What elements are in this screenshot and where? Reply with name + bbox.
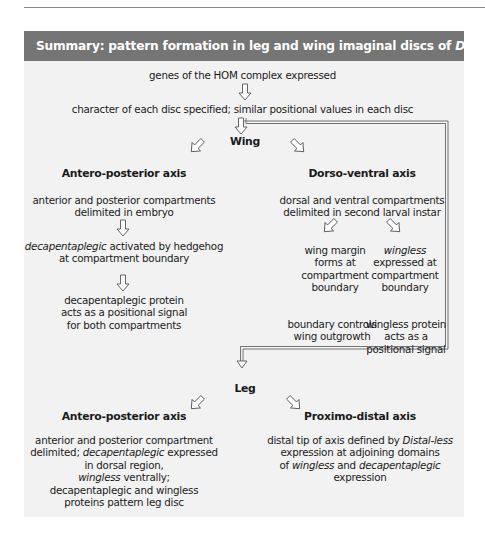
text-line: compartment	[365, 269, 445, 281]
text-span: distal tip of axis defined by	[267, 434, 402, 446]
step-disc-character: character of each disc specified; simila…	[0, 103, 485, 115]
text-line: wingless protein	[366, 318, 446, 330]
text-line: anterior and posterior compartments	[24, 194, 224, 206]
wing-dpp-signal-text: decapentaplegic protein acts as a positi…	[24, 294, 224, 331]
text-line: delimited in second larval instar	[262, 206, 462, 218]
gene-italic: wingless	[384, 244, 426, 256]
gene-italic: decapentaplegic	[83, 446, 165, 458]
text-line: acts as a	[366, 330, 446, 342]
text-span: ventrally;	[120, 471, 169, 483]
text-span: activated by hedgehog	[106, 240, 223, 252]
text-span: expressed	[164, 446, 218, 458]
text-line: for both compartments	[24, 319, 224, 331]
text-line: decapentaplegic protein	[24, 294, 224, 306]
text-span: and	[334, 459, 359, 471]
text-line: at compartment boundary	[24, 252, 224, 264]
text-line: delimited in embryo	[24, 206, 224, 218]
arrow-right-down-icon	[288, 136, 308, 156]
wing-ap-heading: Antero-posterior axis	[24, 168, 224, 180]
text-line: expression at adjoining domains	[255, 446, 465, 458]
leg-label: Leg	[225, 383, 265, 395]
text-line: proteins pattern leg disc	[24, 496, 224, 508]
wing-label: Wing	[225, 136, 265, 148]
arrow-down-icon	[239, 84, 251, 100]
text-span: delimited;	[30, 446, 82, 458]
text-line: expressed at	[365, 256, 445, 268]
text-line: acts as a positional signal	[24, 306, 224, 318]
text-line: anterior and posterior compartment	[24, 434, 224, 446]
gene-italic: decapentaplegic	[359, 459, 441, 471]
wing-dpp-text: decapentaplegic activated by hedgehog at…	[24, 240, 224, 265]
wing-dv-heading: Dorso-ventral axis	[262, 168, 462, 180]
text-line: in dorsal region,	[24, 459, 224, 471]
text-span: of	[279, 459, 291, 471]
wingless-expressed-text: wingless expressed at compartment bounda…	[365, 244, 445, 294]
gene-italic: wingless	[292, 459, 334, 471]
arrow-down-icon	[235, 118, 247, 134]
text-line: expression	[255, 471, 465, 483]
gene-italic: wingless	[78, 471, 120, 483]
text-line: boundary	[365, 281, 445, 293]
wing-dv-text: dorsal and ventral compartments delimite…	[262, 194, 462, 219]
leg-pd-heading: Proximo-distal axis	[255, 411, 465, 423]
text-line: dorsal and ventral compartments	[262, 194, 462, 206]
leg-ap-text: anterior and posterior compartment delim…	[24, 434, 224, 508]
gene-italic: decapentaplegic	[25, 240, 107, 252]
arrow-left-down-icon	[187, 136, 207, 156]
wingless-signal-text: wingless protein acts as a positional si…	[366, 318, 446, 355]
text-line: decapentaplegic and wingless	[24, 484, 224, 496]
wing-ap-text: anterior and posterior compartments deli…	[24, 194, 224, 219]
step-hom-genes: genes of the HOM complex expressed	[0, 69, 485, 81]
leg-pd-text: distal tip of axis defined by Distal-les…	[255, 434, 465, 484]
leg-ap-heading: Antero-posterior axis	[24, 411, 224, 423]
text-line: positional signal	[366, 343, 446, 355]
gene-italic: Distal-less	[403, 434, 453, 446]
